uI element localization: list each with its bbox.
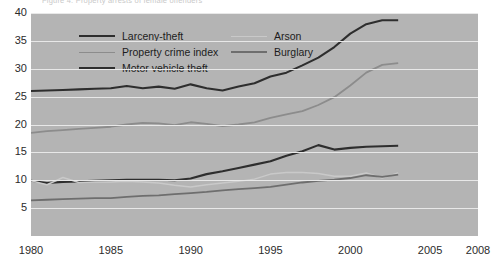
y-axis-tick-label: 15 (1, 146, 27, 157)
x-axis: 1980198519901995200020052008 (0, 236, 492, 262)
y-axis-tick-label: 5 (1, 202, 27, 213)
gridline (31, 13, 478, 14)
legend-item: Burglary (231, 45, 313, 59)
y-axis-tick-label: 20 (1, 119, 27, 130)
y-axis-tick-label: 35 (1, 35, 27, 46)
y-axis: 510152025303540 (0, 0, 27, 249)
x-axis-tick-label: 1990 (178, 244, 202, 256)
gridline (31, 152, 478, 153)
legend-swatch-line-icon (79, 35, 115, 37)
gridline (31, 125, 478, 126)
gridline (31, 69, 478, 70)
x-axis-tick-label: 1980 (19, 244, 43, 256)
x-axis-tick-label: 2005 (418, 244, 442, 256)
figure-container: Figure 4. Property arrests of female off… (0, 0, 492, 269)
x-axis-tick-label: 1995 (258, 244, 282, 256)
figure-title: Figure 4. Property arrests of female off… (42, 0, 342, 6)
gridline (31, 208, 478, 209)
gridline (31, 180, 478, 181)
chart-legend: Larceny-theftProperty crime indexMotor v… (79, 29, 339, 77)
x-axis-tick-label: 1985 (99, 244, 123, 256)
legend-swatch-line-icon (231, 36, 267, 37)
gridline (31, 41, 478, 42)
plot-area: Larceny-theftProperty crime indexMotor v… (31, 13, 478, 236)
x-axis-tick-label: 2008 (466, 244, 490, 256)
legend-swatch-line-icon (79, 52, 115, 53)
gridline (31, 97, 478, 98)
legend-label: Property crime index (122, 46, 218, 58)
y-axis-tick-label: 40 (1, 7, 27, 18)
y-axis-tick-label: 25 (1, 91, 27, 102)
legend-swatch-line-icon (231, 51, 267, 53)
legend-label: Burglary (274, 46, 313, 58)
y-axis-tick-label: 10 (1, 174, 27, 185)
y-axis-tick-label: 30 (1, 63, 27, 74)
x-axis-tick-label: 2000 (338, 244, 362, 256)
legend-item: Property crime index (79, 45, 218, 59)
